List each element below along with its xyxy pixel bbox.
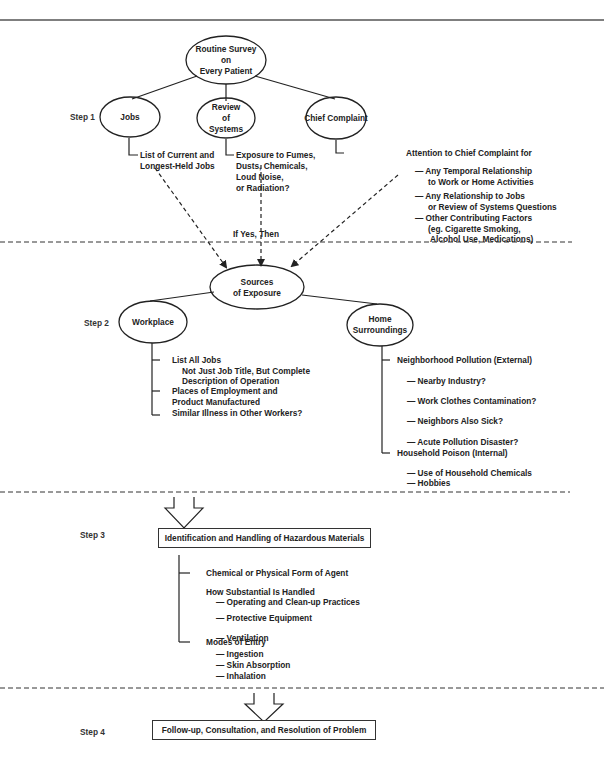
home-internal: Household Poison (Internal): [397, 448, 508, 459]
chief-note-item-1b: to Work or Home Activities: [428, 177, 534, 188]
jobs-note-line-2: Longest-Held Jobs: [140, 161, 215, 172]
review-of-systems-node: Review of Systems: [197, 98, 255, 138]
chief-note-item-2a: — Any Relationship to Jobs: [415, 191, 525, 202]
review-note-line-1: Exposure to Fumes,: [236, 150, 315, 161]
step-1-label: Step 1: [70, 112, 95, 122]
home-surroundings-node: Home Surroundings: [347, 304, 413, 346]
step3-handled-item-1: — Operating and Clean-up Practices: [216, 597, 360, 608]
workplace-item-list-all-jobs: List All Jobs: [172, 355, 221, 366]
step3-modes-item-3: — Inhalation: [216, 671, 266, 682]
chief-complaint-node: Chief Complaint: [306, 97, 366, 139]
workplace-item-similar-illness: Similar Illness in Other Workers?: [172, 408, 302, 419]
workplace-item-places: Places of Employment and: [172, 386, 278, 397]
step3-modes: Modes of Entry: [206, 637, 266, 648]
step-3-box: Identification and Handling of Hazardous…: [158, 528, 371, 548]
home-external: Neighborhood Pollution (External): [397, 355, 532, 366]
workplace-node: Workplace: [119, 301, 187, 343]
step-3-label: Step 3: [80, 530, 105, 540]
chief-note-item-2b: or Review of Systems Questions: [428, 202, 557, 213]
step3-modes-item-2: — Skin Absorption: [216, 660, 290, 671]
chief-note-item-1a: — Any Temporal Relationship: [415, 166, 532, 177]
step3-form: Chemical or Physical Form of Agent: [206, 568, 348, 579]
workplace-item-product: Product Manufactured: [172, 397, 260, 408]
step3-handled-item-2: — Protective Equipment: [216, 613, 312, 624]
jobs-node: Jobs: [100, 97, 160, 137]
review-note-line-3: Loud Noise,: [236, 172, 283, 183]
review-note-line-4: or Radiation?: [236, 183, 289, 194]
chief-note-title: Attention to Chief Complaint for: [406, 148, 532, 159]
step-4-label: Step 4: [80, 727, 105, 737]
jobs-note-line-1: List of Current and: [140, 150, 214, 161]
if-yes-then-label: If Yes, Then: [233, 229, 279, 240]
step-4-box: Follow-up, Consultation, and Resolution …: [152, 720, 376, 740]
home-internal-item-2: — Hobbies: [407, 478, 450, 489]
sources-of-exposure-node: Sources of Exposure: [210, 266, 304, 310]
chief-note-item-3c: Alcohol Use, Medications): [430, 234, 533, 245]
home-external-item-2: — Work Clothes Contamination?: [407, 396, 536, 407]
root-node: Routine Survey on Every Patient: [186, 36, 266, 84]
step-2-label: Step 2: [84, 318, 109, 328]
home-external-item-3: — Neighbors Also Sick?: [407, 416, 503, 427]
review-note-line-2: Dusts, Chemicals,: [236, 161, 307, 172]
chief-note-item-3a: — Other Contributing Factors: [415, 213, 532, 224]
step3-modes-item-1: — Ingestion: [216, 649, 263, 660]
home-external-item-4: — Acute Pollution Disaster?: [407, 437, 518, 448]
home-external-item-1: — Nearby Industry?: [407, 376, 486, 387]
